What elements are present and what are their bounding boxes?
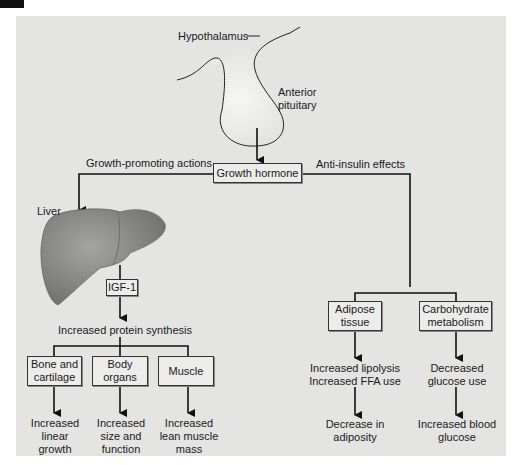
box-line: metabolism bbox=[427, 316, 483, 329]
muscle-box: Muscle bbox=[158, 356, 214, 386]
box-line: Adipose bbox=[335, 303, 375, 316]
bone-cartilage-box: Bone and cartilage bbox=[27, 356, 82, 386]
liver-illustration bbox=[41, 209, 165, 305]
outcome-line: Increased blood bbox=[418, 418, 496, 431]
adipose-tissue-box: Adipose tissue bbox=[328, 301, 382, 331]
box-line: Carbohydrate bbox=[422, 303, 489, 316]
effect-line: Increased FFA use bbox=[309, 375, 401, 388]
effect-lipolysis: Increased lipolysis Increased FFA use bbox=[309, 362, 401, 388]
liver-label: Liver bbox=[37, 205, 61, 218]
box-line: Bone and bbox=[31, 358, 78, 371]
outcome-line: adiposity bbox=[326, 431, 385, 444]
body-organs-box: Body organs bbox=[92, 356, 148, 386]
effect-line: Decreased bbox=[428, 362, 487, 375]
hypothalamus-label: Hypothalamus bbox=[178, 30, 248, 43]
outcome-adiposity: Decrease in adiposity bbox=[326, 418, 385, 444]
effect-line: glucose use bbox=[428, 375, 487, 388]
pituitary-label-line1: Anterior bbox=[278, 86, 317, 99]
effect-line: Increased lipolysis bbox=[309, 362, 401, 375]
box-line: cartilage bbox=[34, 371, 76, 384]
outcome-line: growth bbox=[31, 443, 79, 456]
outcome-line: lean muscle bbox=[160, 430, 219, 443]
outcome-lean-muscle: Increased lean muscle mass bbox=[160, 417, 219, 456]
growth-promoting-label: Growth-promoting actions bbox=[86, 157, 212, 170]
outcome-line: size and bbox=[97, 430, 145, 443]
outcome-size-function: Increased size and function bbox=[97, 417, 145, 456]
box-line: Body bbox=[107, 358, 132, 371]
outcome-line: linear bbox=[31, 430, 79, 443]
effect-glucose-use: Decreased glucose use bbox=[428, 362, 487, 388]
igf1-box: IGF-1 bbox=[106, 279, 138, 296]
outcome-line: Increased bbox=[160, 417, 219, 430]
protein-synthesis-label: Increased protein synthesis bbox=[58, 324, 192, 337]
anti-insulin-label: Anti-insulin effects bbox=[316, 158, 405, 171]
box-line: tissue bbox=[341, 316, 370, 329]
diagram-graphics bbox=[0, 0, 520, 465]
carbohydrate-metabolism-box: Carbohydrate metabolism bbox=[419, 301, 492, 331]
growth-hormone-box: Growth hormone bbox=[213, 163, 302, 183]
outcome-line: mass bbox=[160, 443, 219, 456]
outcome-linear-growth: Increased linear growth bbox=[31, 417, 79, 456]
outcome-blood-glucose: Increased blood glucose bbox=[418, 418, 496, 444]
outcome-line: Increased bbox=[31, 417, 79, 430]
outcome-line: glucose bbox=[418, 431, 496, 444]
outcome-line: Increased bbox=[97, 417, 145, 430]
box-line: organs bbox=[103, 371, 137, 384]
outcome-line: Decrease in bbox=[326, 418, 385, 431]
pituitary-label-line2: pituitary bbox=[278, 99, 317, 112]
outcome-line: function bbox=[97, 443, 145, 456]
